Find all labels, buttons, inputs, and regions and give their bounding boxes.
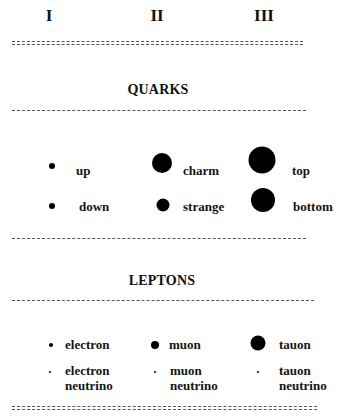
top-quark-label: top [292,163,310,178]
electron-label: electron [65,337,110,352]
down-quark-label: down [79,199,109,214]
leptons-title: LEPTONS [129,273,196,289]
muon-mass-dot [151,341,159,349]
down-quark-mass-dot [49,203,55,209]
tauon-mass-dot [251,336,266,351]
charm-quark-mass-dot [152,153,172,173]
strange-quark-label: strange [183,199,224,214]
muon-label: muon [169,337,201,352]
electron-mass-dot [49,343,53,347]
generation-header-iii: III [254,6,274,26]
quarks-top-rule [12,110,306,111]
quarks-title: QUARKS [127,82,188,98]
leptons-top-rule [12,300,314,301]
muon-neutrino-label: muon neutrino [170,363,218,393]
generation-header-ii: II [150,6,163,26]
tauon-neutrino-label: tauon neutrino [279,363,327,393]
bottom-double-rule [12,406,317,410]
charm-quark-label: charm [183,163,219,178]
up-quark-label: up [76,163,90,178]
tauon-neutrino-mass-dot [257,371,259,373]
tauon-label: tauon [279,337,311,352]
generation-header-i: I [46,6,53,26]
strange-quark-mass-dot [157,199,170,212]
bottom-quark-mass-dot [251,188,275,212]
bottom-quark-label: bottom [293,199,333,214]
quarks-bottom-rule [12,238,306,239]
top-double-rule [12,41,303,45]
top-quark-mass-dot [249,147,276,174]
up-quark-mass-dot [49,163,55,169]
muon-neutrino-mass-dot [154,371,156,373]
electron-neutrino-label: electron neutrino [65,363,113,393]
electron-neutrino-mass-dot [49,371,51,373]
